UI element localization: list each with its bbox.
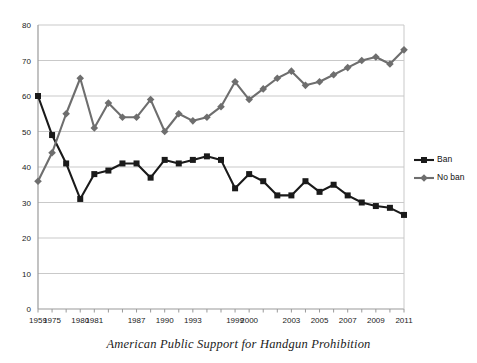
y-tick-label: 50 bbox=[22, 128, 31, 137]
x-tick-label: 1987 bbox=[128, 316, 146, 325]
figure-caption: American Public Support for Handgun Proh… bbox=[0, 337, 477, 352]
y-tick-label: 80 bbox=[22, 21, 31, 30]
data-point-marker bbox=[176, 160, 182, 166]
chart-container: 01020304050607080 1959197519801981198719… bbox=[0, 0, 477, 363]
y-tick-label: 30 bbox=[22, 199, 31, 208]
data-point-marker bbox=[62, 110, 70, 118]
data-point-marker bbox=[49, 132, 55, 138]
data-point-marker bbox=[190, 157, 196, 163]
data-point-marker bbox=[105, 168, 111, 174]
data-point-marker bbox=[48, 149, 56, 157]
data-point-marker bbox=[204, 153, 210, 159]
x-tick-label: 1990 bbox=[156, 316, 174, 325]
gridlines bbox=[38, 25, 404, 274]
data-point-marker bbox=[77, 196, 83, 202]
data-point-marker bbox=[218, 157, 224, 163]
x-tick-label: 2011 bbox=[395, 316, 413, 325]
data-point-marker bbox=[260, 178, 266, 184]
data-point-marker bbox=[317, 189, 323, 195]
y-tick-label: 20 bbox=[22, 234, 31, 243]
data-point-marker bbox=[373, 203, 379, 209]
data-point-marker bbox=[76, 74, 84, 82]
data-point-marker bbox=[162, 157, 168, 163]
data-point-marker bbox=[372, 53, 380, 61]
data-point-marker bbox=[401, 212, 407, 218]
data-point-marker bbox=[359, 200, 365, 206]
legend-label: Ban bbox=[437, 154, 452, 164]
data-point-marker bbox=[387, 205, 393, 211]
x-tick-label: 1993 bbox=[184, 316, 202, 325]
data-point-marker bbox=[288, 192, 294, 198]
data-point-marker bbox=[302, 178, 308, 184]
x-tick-label: 1975 bbox=[43, 316, 61, 325]
data-point-marker bbox=[330, 71, 338, 79]
data-point-marker bbox=[34, 177, 42, 185]
legend-item: No ban bbox=[414, 172, 465, 182]
data-point-marker bbox=[358, 57, 366, 65]
data-series bbox=[34, 46, 408, 185]
x-tick-labels: 1959197519801981198719901993199920002003… bbox=[29, 316, 413, 325]
data-point-marker bbox=[134, 160, 140, 166]
data-point-marker bbox=[421, 157, 427, 163]
legend-label: No ban bbox=[437, 172, 465, 182]
data-point-marker bbox=[148, 175, 154, 181]
y-tick-label: 0 bbox=[27, 305, 32, 314]
x-tick-label: 2003 bbox=[282, 316, 300, 325]
data-point-marker bbox=[232, 185, 238, 191]
data-point-marker bbox=[331, 182, 337, 188]
data-point-marker bbox=[316, 78, 324, 86]
data-point-marker bbox=[246, 171, 252, 177]
y-tick-label: 60 bbox=[22, 92, 31, 101]
y-tick-label: 40 bbox=[22, 163, 31, 172]
x-tick-label: 2005 bbox=[311, 316, 329, 325]
chart-legend: BanNo ban bbox=[414, 154, 465, 182]
y-tick-label: 70 bbox=[22, 57, 31, 66]
data-point-marker bbox=[63, 160, 69, 166]
data-point-marker bbox=[119, 160, 125, 166]
data-point-marker bbox=[345, 192, 351, 198]
data-point-marker bbox=[91, 171, 97, 177]
data-point-marker bbox=[189, 117, 197, 125]
x-tick-label: 1981 bbox=[85, 316, 103, 325]
data-point-marker bbox=[344, 64, 352, 72]
line-chart: 01020304050607080 1959197519801981198719… bbox=[0, 0, 477, 363]
data-point-marker bbox=[274, 192, 280, 198]
x-tick-label: 2009 bbox=[367, 316, 385, 325]
legend-item: Ban bbox=[414, 154, 452, 164]
y-tick-labels: 01020304050607080 bbox=[22, 21, 31, 314]
x-tick-label: 2000 bbox=[240, 316, 258, 325]
data-point-marker bbox=[420, 174, 428, 182]
x-tick-label: 2007 bbox=[339, 316, 357, 325]
y-tick-label: 10 bbox=[22, 270, 31, 279]
data-point-marker bbox=[35, 93, 41, 99]
